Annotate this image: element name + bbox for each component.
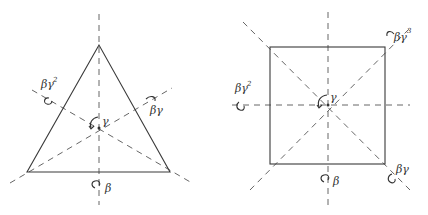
label-bottom-axis: β xyxy=(104,182,111,195)
square-diagram: γ β βγ 2 βγ 3 βγ xyxy=(232,12,412,205)
label-left-axis-exponent: 2 xyxy=(52,76,58,84)
label-left-axis-exponent: 2 xyxy=(246,80,252,88)
arrow-head-icon xyxy=(317,105,322,108)
label-right-axis: βγ xyxy=(149,104,163,117)
label-bottom-right-axis: βγ xyxy=(395,163,409,176)
rotation-arrow-icon xyxy=(237,102,244,110)
diagonal-axis-right xyxy=(10,88,172,183)
triangle-diagram: γ β βγ 2 βγ xyxy=(10,14,192,205)
rotation-arrow-icon xyxy=(388,174,395,183)
label-rotation-center: γ xyxy=(102,115,109,128)
diagram-canvas: γ β βγ 2 βγ γ β βγ 2 βγ 3 βγ xyxy=(0,0,428,215)
arrow-head-icon xyxy=(89,126,94,129)
center-point xyxy=(98,127,101,130)
rotation-arrow-icon xyxy=(45,98,52,104)
triangle-outline xyxy=(27,45,170,172)
label-rotation-center: γ xyxy=(330,91,337,104)
rotation-arrow-icon xyxy=(387,32,394,36)
label-top-right-axis: βγ xyxy=(393,31,407,44)
label-bottom-axis: β xyxy=(332,175,339,188)
label-top-right-axis-exponent: 3 xyxy=(407,27,412,35)
